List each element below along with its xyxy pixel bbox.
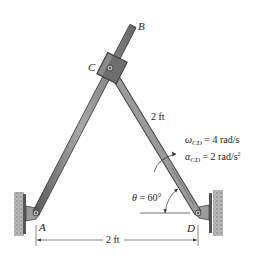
rod-ab (36, 25, 136, 214)
label-point-a: A (39, 222, 46, 233)
label-alpha-cd: αCD = 2 rad/s2 (185, 151, 241, 164)
label-point-b: B (138, 21, 145, 32)
label-link-cd-length: 2 ft (151, 112, 165, 122)
label-theta: θ = 60° (132, 193, 162, 203)
label-omega-cd: ωCD = 4 rad/s (185, 135, 239, 147)
label-point-c: C (88, 62, 95, 73)
label-point-d: D (187, 223, 195, 234)
label-ground-distance: 2 ft (106, 235, 120, 245)
